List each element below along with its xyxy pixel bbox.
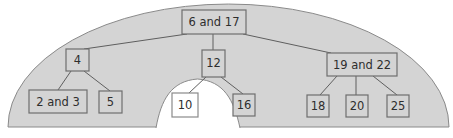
tree-in-dome-diagram: 6 and 17 4 12 19 and 22 2 and 3 5 10 16	[0, 0, 453, 138]
node-label-25: 25	[391, 99, 406, 113]
node-label-4: 4	[74, 53, 81, 67]
node-label-10: 10	[178, 98, 193, 112]
diagram-canvas: 6 and 17 4 12 19 and 22 2 and 3 5 10 16	[0, 0, 453, 138]
node-label-16: 16	[237, 98, 252, 112]
node-label-2-and-3: 2 and 3	[36, 95, 80, 109]
node-label-19-and-22: 19 and 22	[333, 58, 391, 72]
node-label-12: 12	[206, 56, 221, 70]
node-label-18: 18	[311, 99, 326, 113]
node-label-20: 20	[350, 99, 365, 113]
node-label-5: 5	[107, 95, 114, 109]
node-label-6-and-17: 6 and 17	[189, 15, 240, 29]
